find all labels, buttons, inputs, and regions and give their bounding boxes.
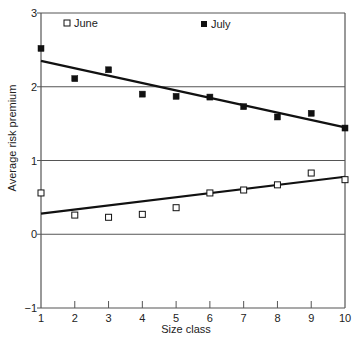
july-data-point bbox=[139, 91, 145, 97]
x-tick-label: 3 bbox=[105, 312, 111, 324]
june-trendline bbox=[41, 177, 345, 214]
june-data-point bbox=[139, 211, 145, 217]
june-data-point bbox=[207, 190, 213, 196]
legend-july-label: July bbox=[211, 18, 231, 30]
gridlines bbox=[41, 13, 345, 234]
july-data-point bbox=[173, 93, 179, 99]
y-axis-title: Average risk premium bbox=[6, 85, 18, 192]
june-data-point bbox=[241, 187, 247, 193]
june-data-point bbox=[274, 182, 280, 188]
y-tick-label: 1 bbox=[31, 155, 37, 167]
y-tick-label: 2 bbox=[31, 81, 37, 93]
july-data-point bbox=[241, 104, 247, 110]
june-data-point bbox=[308, 170, 314, 176]
x-tick-label: 8 bbox=[274, 312, 280, 324]
x-tick-label: 1 bbox=[38, 312, 44, 324]
july-data-point bbox=[106, 67, 112, 73]
x-axis-title: Size class bbox=[161, 323, 211, 335]
june-data-point bbox=[72, 212, 78, 218]
legend-july-filled-square-icon bbox=[201, 21, 207, 27]
x-tick-label: 4 bbox=[139, 312, 145, 324]
july-data-point bbox=[274, 114, 280, 120]
y-tick-label: 0 bbox=[31, 228, 37, 240]
july-data-point bbox=[38, 45, 44, 51]
trendlines bbox=[41, 61, 345, 214]
y-tick-label: −1 bbox=[24, 302, 37, 314]
june-data-point bbox=[106, 214, 112, 220]
legend: June July bbox=[64, 17, 231, 30]
data-points bbox=[38, 45, 348, 220]
y-tick-label: 3 bbox=[31, 7, 37, 19]
july-data-point bbox=[72, 76, 78, 82]
risk-premium-chart: 12345678910 −10123 June July Size class … bbox=[0, 0, 362, 339]
june-data-point bbox=[173, 205, 179, 211]
chart-canvas: 12345678910 −10123 June July Size class … bbox=[0, 0, 362, 339]
july-trendline bbox=[41, 61, 345, 127]
july-data-point bbox=[308, 110, 314, 116]
july-data-point bbox=[207, 94, 213, 100]
x-tick-label: 10 bbox=[339, 312, 351, 324]
x-axis-ticks: 12345678910 bbox=[38, 301, 351, 324]
x-tick-label: 2 bbox=[72, 312, 78, 324]
x-tick-label: 7 bbox=[241, 312, 247, 324]
june-data-point bbox=[342, 177, 348, 183]
legend-june-label: June bbox=[74, 17, 98, 29]
y-axis-ticks: −10123 bbox=[24, 7, 41, 314]
x-tick-label: 9 bbox=[308, 312, 314, 324]
legend-june-open-square-icon bbox=[64, 20, 70, 26]
june-data-point bbox=[38, 190, 44, 196]
july-data-point bbox=[342, 125, 348, 131]
